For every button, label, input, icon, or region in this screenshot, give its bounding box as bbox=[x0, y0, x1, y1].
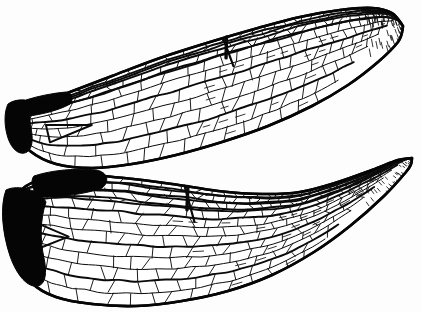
forewing-cross-vein bbox=[141, 74, 142, 80]
hindwing-cross-vein bbox=[300, 194, 303, 195]
hindwing-cross-vein bbox=[402, 161, 403, 162]
hindwing-cross-vein bbox=[237, 219, 238, 226]
hindwing-cross-vein bbox=[116, 190, 122, 191]
hindwing-cross-vein bbox=[333, 217, 334, 221]
forewing-cross-vein bbox=[217, 49, 218, 56]
hindwing-cross-vein bbox=[261, 203, 262, 204]
hindwing-cross-vein bbox=[292, 196, 294, 197]
forewing-cross-vein bbox=[357, 19, 358, 20]
hindwing-cross-vein bbox=[252, 203, 253, 204]
forewing-cross-vein bbox=[311, 60, 312, 71]
hindwing-marginal-cross-vein bbox=[409, 159, 410, 160]
forewing-cross-vein bbox=[107, 121, 108, 132]
forewing-cross-vein bbox=[91, 105, 92, 114]
hindwing-cross-vein bbox=[249, 198, 250, 203]
hindwing-cross-vein bbox=[285, 197, 286, 198]
hindwing-marginal-cross-vein bbox=[408, 162, 409, 163]
dragonfly-wing-illustration bbox=[0, 0, 421, 312]
hindwing-cross-vein bbox=[230, 253, 231, 262]
forewing-cross-vein bbox=[346, 13, 347, 15]
forewing-cross-vein bbox=[364, 25, 365, 32]
hindwing-intercalary-vein bbox=[193, 251, 204, 252]
hindwing-cross-vein bbox=[389, 170, 392, 171]
hindwing-cross-vein bbox=[265, 198, 269, 199]
forewing-cross-vein bbox=[189, 53, 190, 54]
wing-plate-figure: Dragonfly wing venation plate Forewing H… bbox=[0, 0, 421, 312]
hindwing-cross-vein bbox=[325, 188, 328, 189]
hindwing-cross-vein bbox=[276, 197, 278, 198]
forewing-cross-vein bbox=[149, 77, 150, 78]
